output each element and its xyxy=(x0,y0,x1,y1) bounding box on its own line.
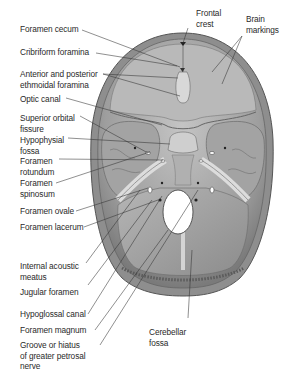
label-line: Brain xyxy=(246,14,279,25)
label-foramen-lacerum: Foramen lacerum xyxy=(20,222,84,233)
label-foramen-magnum: Foramen magnum xyxy=(20,325,86,336)
label-line: nerve xyxy=(20,361,85,372)
foramen-magnum-shape xyxy=(163,190,193,234)
label-line: rotundum xyxy=(20,167,54,178)
sella-turcica xyxy=(168,132,198,153)
label-line: Superior orbital xyxy=(20,113,75,124)
label-hypoglossal-canal: Hypoglossal canal xyxy=(20,309,86,320)
label-line: spinosum xyxy=(20,189,55,200)
label-foramen-ovale: Foramen ovale xyxy=(20,206,74,217)
label-foramen-rotundum: Foramen rotundum xyxy=(20,156,54,177)
label-line: Groove or hiatus xyxy=(20,340,85,351)
cranial-base-figure: Foramen cecum Cribriform foramina Anteri… xyxy=(0,0,305,389)
label-line: fossa xyxy=(20,146,64,157)
label-ethmoidal-foramina: Anterior and posterior ethmoidal foramin… xyxy=(20,69,98,90)
label-line: of greater petrosal xyxy=(20,351,85,362)
label-optic-canal: Optic canal xyxy=(20,94,60,105)
label-line: meatus xyxy=(20,272,79,283)
label-line: Internal acoustic xyxy=(20,261,79,272)
label-line: Jugular foramen xyxy=(20,287,78,298)
label-line: Cribriform foramina xyxy=(20,47,89,58)
label-line: Foramen lacerum xyxy=(20,222,84,233)
label-hypophysial-fossa: Hypophysial fossa xyxy=(20,135,64,156)
label-greater-petrosal-groove: Groove or hiatus of greater petrosal ner… xyxy=(20,340,85,372)
label-foramen-spinosum: Foramen spinosum xyxy=(20,178,55,199)
label-superior-orbital-fissure: Superior orbital fissure xyxy=(20,113,75,134)
label-cribriform-foramina: Cribriform foramina xyxy=(20,47,89,58)
label-jugular-foramen: Jugular foramen xyxy=(20,287,78,298)
label-line: Foramen xyxy=(20,178,55,189)
clivus xyxy=(172,155,194,185)
label-foramen-cecum: Foramen cecum xyxy=(20,24,79,35)
label-line: Foramen xyxy=(20,156,54,167)
label-line: fossa xyxy=(149,338,186,349)
label-line: Cerebellar xyxy=(149,327,186,338)
label-line: ethmoidal foramina xyxy=(20,80,98,91)
label-line: Foramen ovale xyxy=(20,206,74,217)
label-line: crest xyxy=(196,19,221,30)
label-line: Hypoglossal canal xyxy=(20,309,86,320)
cribriform-plate xyxy=(176,72,190,103)
label-line: Foramen cecum xyxy=(20,24,79,35)
label-line: Frontal xyxy=(196,8,221,19)
label-line: Optic canal xyxy=(20,94,60,105)
label-line: Foramen magnum xyxy=(20,325,86,336)
label-frontal-crest: Frontal crest xyxy=(196,8,221,29)
label-line: markings xyxy=(246,25,279,36)
label-line: fissure xyxy=(20,124,75,135)
label-brain-markings: Brain markings xyxy=(246,14,279,35)
label-cerebellar-fossa: Cerebellar fossa xyxy=(149,327,186,348)
label-line: Hypophysial xyxy=(20,135,64,146)
label-line: Anterior and posterior xyxy=(20,69,98,80)
label-internal-acoustic-meatus: Internal acoustic meatus xyxy=(20,261,79,282)
